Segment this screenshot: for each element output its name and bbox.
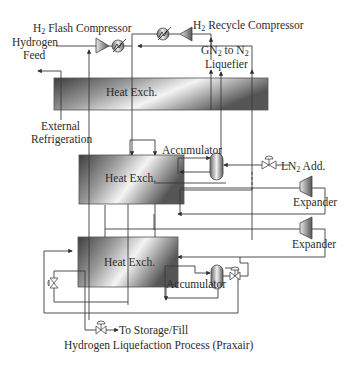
expander-upper-label: Expander	[293, 196, 337, 209]
accumulator-lower-valve-icon	[230, 267, 240, 280]
ln2-valve-icon	[262, 156, 276, 169]
to-storage-label: To Storage/Fill	[119, 324, 188, 337]
expander-lower-label: Expander	[292, 238, 336, 251]
heat-exchanger-2-label: Heat Exch.	[105, 172, 156, 184]
accumulator-upper-label: Accumulator	[162, 144, 222, 157]
accumulator-lower-label: Accumulator	[166, 278, 226, 291]
external-refrigeration-label-line2: Refrigeration	[31, 133, 92, 146]
heat-exchanger-3-label: Heat Exch.	[104, 256, 155, 268]
expander-upper-icon	[300, 176, 312, 197]
external-refrigeration-label-line1: External	[41, 120, 80, 133]
expander-lower-icon	[300, 217, 312, 239]
flash-compressor-label: H2 Flash Compressor	[33, 22, 132, 35]
ln2-add-label: LN2 Add.	[281, 160, 325, 173]
flash-cooler-icon	[112, 39, 126, 52]
diagram-title: Hydrogen Liquefaction Process (Praxair)	[64, 339, 253, 352]
hydrogen-feed-label-line2: Feed	[23, 49, 45, 62]
storage-valve-icon	[96, 321, 106, 334]
gn2-liquefier-label-line1: GN2 to N2	[201, 44, 249, 57]
flash-compressor-icon	[96, 38, 109, 53]
recycle-compressor-icon	[180, 27, 192, 41]
accumulator-upper-vessel	[210, 153, 223, 180]
recycle-compressor-label: H2 Recycle Compressor	[193, 19, 304, 32]
recycle-cooler-icon	[157, 27, 171, 40]
process-flow-diagram	[0, 0, 362, 367]
gn2-liquefier-label-line2: Liquefier	[205, 58, 248, 71]
heat-exchanger-1	[54, 78, 268, 110]
left-valve-icon	[48, 278, 58, 288]
hydrogen-feed-label-line1: Hydrogen	[12, 36, 58, 49]
heat-exchanger-1-label: Heat Exch.	[106, 86, 157, 98]
